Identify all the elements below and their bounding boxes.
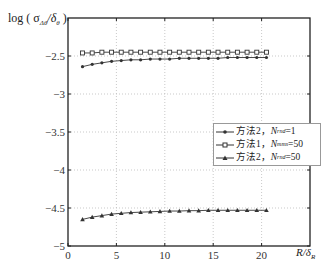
y-tick-label: −3 [53,88,65,100]
data-point [129,58,132,61]
y-tick-label: −2.5 [45,50,65,62]
x-tick-label: 10 [159,249,171,261]
legend-item: 方法2，Nrnd=50 [216,151,318,164]
data-point [245,50,249,54]
data-point [158,50,162,54]
y-tick-label: −5 [53,240,65,252]
data-point [110,50,114,54]
x-tick-label: 0 [65,249,71,261]
x-tick-label: 15 [208,249,220,261]
data-point [197,50,201,54]
legend: 方法2，Nrnd=1 方法1，Nmms=50 方法2，Nrnd=50 [213,123,321,166]
data-point [236,56,239,59]
data-point [139,58,142,61]
data-point [168,57,171,60]
data-point [119,50,123,54]
y-axis-label: log ( σΔθ/δθ ) [8,11,67,27]
data-point [207,57,210,60]
y-tick-label: −3.5 [45,126,65,138]
data-point [255,56,258,59]
data-point [177,50,181,54]
data-point [216,57,219,60]
data-point [149,57,152,60]
data-point [206,50,210,54]
data-point [129,50,133,54]
triangle-marker-icon [216,154,234,162]
data-point [81,65,84,68]
data-point [90,51,94,55]
data-point [168,50,172,54]
data-point [100,50,104,54]
data-point [178,57,181,60]
square-marker-icon [216,141,234,149]
x-axis-label: R/δR [296,246,315,261]
data-point [110,60,113,63]
y-tick-label: −4 [53,164,65,176]
data-point [245,56,248,59]
data-point [226,56,229,59]
data-point [139,50,143,54]
data-point [235,50,239,54]
data-point [216,50,220,54]
legend-item: 方法1，Nmms=50 [216,138,318,151]
data-point [120,59,123,62]
y-tick-label: −4.5 [45,202,65,214]
data-point [197,57,200,60]
data-point [91,63,94,66]
series-line [83,58,267,67]
data-point [81,51,85,55]
data-point [187,57,190,60]
data-point [255,50,259,54]
legend-item: 方法2，Nrnd=1 [216,125,318,138]
data-point [226,50,230,54]
x-tick-label: 20 [256,249,268,261]
data-point [148,50,152,54]
data-point [100,61,103,64]
x-tick-label: 5 [114,249,120,261]
circle-marker-icon [216,128,234,136]
data-point [187,50,191,54]
data-point [264,50,268,54]
data-point [265,56,268,59]
data-point [158,57,161,60]
